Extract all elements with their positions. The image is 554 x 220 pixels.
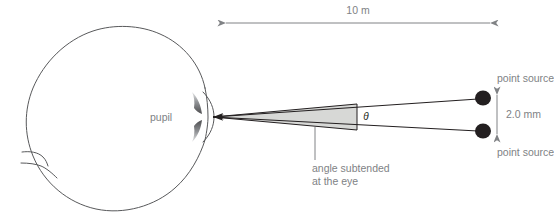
diagram-canvas: pupil 10 m θ angle subtended at the eye …	[0, 0, 554, 220]
theta-label: θ	[363, 111, 369, 122]
distance-dimension-group: 10 m	[226, 4, 490, 23]
pupil-label: pupil	[150, 111, 172, 123]
angle-caption-line2: at the eye	[312, 175, 358, 187]
distance-label: 10 m	[346, 4, 370, 16]
eyeball-group: pupil	[21, 26, 214, 210]
point-source-top-label: point source	[497, 72, 554, 84]
angle-caption-group: angle subtended at the eye	[312, 127, 390, 187]
separation-dimension-group: 2.0 mm	[497, 95, 541, 134]
shaded-angle-wedge	[213, 104, 357, 130]
eyeball-outline	[26, 26, 208, 210]
point-source-bottom-dot	[475, 124, 491, 139]
point-source-top-dot	[475, 91, 491, 106]
angle-caption-line1: angle subtended	[312, 162, 390, 174]
eye-angle-diagram: pupil 10 m θ angle subtended at the eye …	[0, 0, 554, 220]
point-source-bottom-label: point source	[497, 146, 554, 158]
separation-label: 2.0 mm	[506, 108, 541, 120]
